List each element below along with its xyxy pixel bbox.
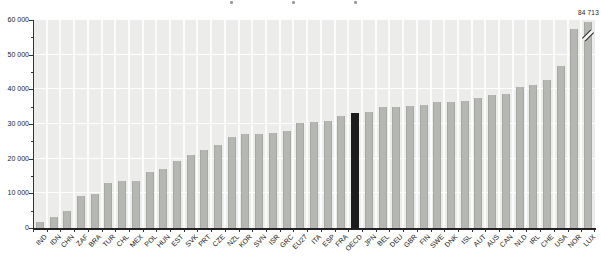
gridline-vertical <box>525 20 527 228</box>
x-axis-tick <box>417 229 418 232</box>
x-axis-tick <box>266 229 267 232</box>
gridline-vertical <box>567 20 569 228</box>
plot-area <box>33 20 595 228</box>
gridline-vertical <box>416 20 418 228</box>
x-axis-tick <box>472 229 473 232</box>
bar-ita <box>310 122 318 228</box>
x-axis-tick <box>74 229 75 232</box>
bar-esp <box>324 121 332 228</box>
gridline-vertical <box>128 20 130 228</box>
gridline-vertical <box>59 20 61 228</box>
bar-bra <box>91 194 99 228</box>
y-tick-label: 30 000 <box>0 120 29 128</box>
gridline-horizontal <box>33 54 595 55</box>
x-axis-tick <box>444 229 445 232</box>
bar-chl <box>118 181 126 228</box>
bar-aut <box>474 98 482 228</box>
bar-jpn <box>365 112 373 228</box>
bar-swe <box>433 102 441 228</box>
bar-idn <box>50 217 58 228</box>
gridline-vertical <box>443 20 445 228</box>
gridline-vertical <box>155 20 157 228</box>
x-tick-label-isl: ISL <box>460 233 472 245</box>
bar-svk <box>187 155 195 228</box>
x-axis-tick <box>33 229 34 232</box>
x-tick-label-can: CAN <box>498 233 513 248</box>
x-axis-tick <box>115 229 116 232</box>
x-tick-label-aus: AUS <box>485 233 500 248</box>
bar-isr <box>269 133 277 228</box>
gridline-vertical <box>87 20 89 228</box>
x-tick-label-lux: LUX <box>582 233 597 248</box>
x-axis-tick <box>581 229 582 232</box>
bar-irl <box>529 85 537 228</box>
x-axis-tick <box>156 229 157 232</box>
x-axis-tick <box>568 229 569 232</box>
x-axis-tick <box>102 229 103 232</box>
gridline-vertical <box>114 20 116 228</box>
x-tick-label-chl: CHL <box>115 233 130 248</box>
bar-che <box>543 80 551 228</box>
bar-fin <box>420 105 428 228</box>
gridline-vertical <box>238 20 240 228</box>
gridline-vertical <box>334 20 336 228</box>
x-tick-label-ind: IND <box>34 233 47 246</box>
y-tick-label: 0 <box>0 224 29 232</box>
gridline-vertical <box>402 20 404 228</box>
x-axis-tick <box>47 229 48 232</box>
x-tick-label-zaf: ZAF <box>75 233 89 247</box>
x-tick-label-svn: SVN <box>252 233 267 248</box>
x-tick-label-bra: BRA <box>88 233 103 248</box>
gridline-vertical <box>320 20 322 228</box>
x-tick-label-bel: BEL <box>376 233 390 247</box>
y-tick-label: 20 000 <box>0 155 29 163</box>
gridline-vertical <box>457 20 459 228</box>
gridline-vertical <box>224 20 226 228</box>
y-tick-label: 60 000 <box>0 16 29 24</box>
x-tick-label-chn: CHN <box>60 233 76 249</box>
bar-oecd <box>351 113 359 228</box>
x-axis-line <box>33 228 596 230</box>
x-axis-tick <box>431 229 432 232</box>
x-axis-tick <box>307 229 308 232</box>
gridline-vertical <box>101 20 103 228</box>
x-axis-tick <box>403 229 404 232</box>
bar-hun <box>159 169 167 228</box>
x-tick-label-est: EST <box>170 233 185 248</box>
value-annotation: 84 713 <box>578 9 599 16</box>
x-axis-tick <box>554 229 555 232</box>
y-axis-major-tick <box>29 159 33 160</box>
y-axis-major-tick <box>29 124 33 125</box>
x-axis-tick <box>499 229 500 232</box>
x-tick-label-nzl: NZL <box>225 233 239 247</box>
x-axis-tick <box>211 229 212 232</box>
bar-usa <box>557 66 565 228</box>
x-tick-label-ita: ITA <box>310 233 322 245</box>
y-axis-major-tick <box>29 193 33 194</box>
x-axis-tick <box>239 229 240 232</box>
gridline-vertical <box>512 20 514 228</box>
x-tick-label-tur: TUR <box>101 233 116 248</box>
bar-lux <box>584 22 592 228</box>
x-tick-label-kor: KOR <box>238 233 254 249</box>
bar-nld <box>516 87 524 228</box>
x-axis-tick <box>376 229 377 232</box>
y-axis-major-tick <box>29 20 33 21</box>
x-axis-tick <box>348 229 349 232</box>
gridline-vertical <box>471 20 473 228</box>
y-axis-major-tick <box>29 89 33 90</box>
y-axis-minor-tick <box>31 107 33 108</box>
gridline-vertical <box>210 20 212 228</box>
x-tick-label-prt: PRT <box>198 233 213 248</box>
bar-nor <box>570 29 578 228</box>
x-axis-tick <box>280 229 281 232</box>
bar-gbr <box>406 106 414 228</box>
y-axis-minor-tick <box>31 141 33 142</box>
x-axis-tick <box>60 229 61 232</box>
gridline-vertical <box>498 20 500 228</box>
x-tick-label-pol: POL <box>143 233 158 248</box>
bar-bel <box>379 107 387 228</box>
gridline-vertical <box>265 20 267 228</box>
x-tick-label-esp: ESP <box>321 233 336 248</box>
x-axis-tick <box>170 229 171 232</box>
